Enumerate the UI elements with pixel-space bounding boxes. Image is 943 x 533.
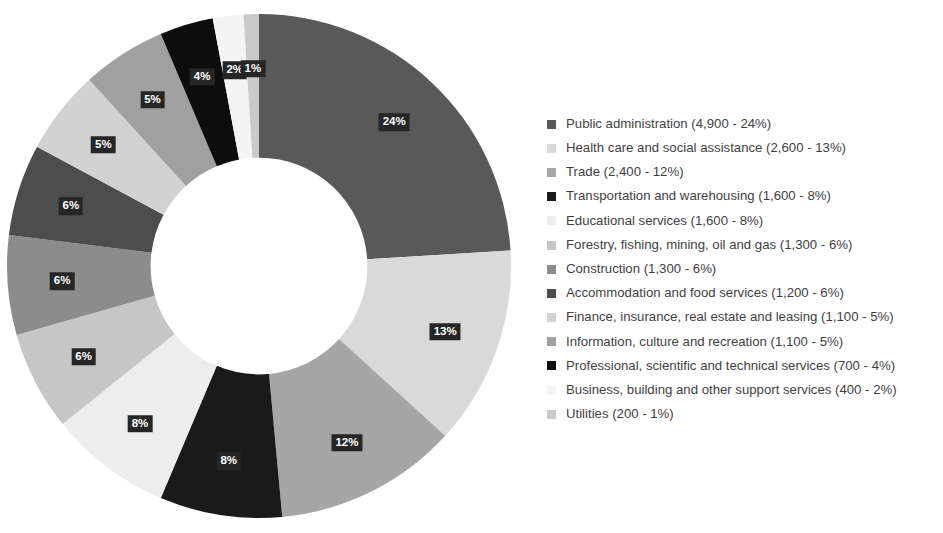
legend-swatch-icon bbox=[547, 265, 556, 274]
legend-item[interactable]: Educational services (1,600 - 8%) bbox=[545, 209, 943, 233]
legend-item[interactable]: Professional, scientific and technical s… bbox=[545, 354, 943, 378]
legend-item-label: Business, building and other support ser… bbox=[566, 383, 897, 398]
legend-swatch-icon bbox=[547, 168, 556, 177]
legend-item-label: Public administration (4,900 - 24%) bbox=[566, 117, 771, 132]
legend-item-label: Finance, insurance, real estate and leas… bbox=[566, 310, 894, 325]
slice-percent-label: 6% bbox=[59, 197, 84, 215]
legend-swatch-icon bbox=[547, 120, 556, 129]
legend-swatch-icon bbox=[547, 386, 556, 395]
legend-item-label: Trade (2,400 - 12%) bbox=[566, 165, 684, 180]
slice-percent-label: 24% bbox=[379, 113, 410, 131]
legend-swatch-icon bbox=[547, 192, 556, 201]
slice-percent-label: 8% bbox=[128, 415, 153, 433]
slice-percent-label: 8% bbox=[216, 452, 241, 470]
legend-item-label: Forestry, fishing, mining, oil and gas (… bbox=[566, 238, 852, 253]
legend-swatch-icon bbox=[547, 361, 556, 370]
legend-item-label: Construction (1,300 - 6%) bbox=[566, 262, 716, 277]
slice-percent-label: 5% bbox=[91, 136, 116, 154]
legend-item[interactable]: Finance, insurance, real estate and leas… bbox=[545, 306, 943, 330]
legend-swatch-icon bbox=[547, 289, 556, 298]
donut-chart: 24%13%12%8%8%6%6%6%5%5%4%2%1% bbox=[0, 0, 525, 533]
legend-item[interactable]: Transportation and warehousing (1,600 - … bbox=[545, 185, 943, 209]
slice-percent-label: 6% bbox=[71, 348, 96, 366]
slice-percent-label: 6% bbox=[50, 272, 75, 290]
legend-item-label: Health care and social assistance (2,600… bbox=[566, 141, 846, 156]
donut-slice[interactable] bbox=[259, 14, 511, 259]
legend-item-label: Educational services (1,600 - 8%) bbox=[566, 214, 763, 229]
legend-swatch-icon bbox=[547, 216, 556, 225]
legend-item[interactable]: Business, building and other support ser… bbox=[545, 378, 943, 402]
slice-percent-label: 13% bbox=[430, 323, 461, 341]
donut-chart-svg bbox=[0, 0, 525, 533]
legend-item[interactable]: Information, culture and recreation (1,1… bbox=[545, 330, 943, 354]
legend-swatch-icon bbox=[547, 241, 556, 250]
legend-swatch-icon bbox=[547, 410, 556, 419]
legend-item[interactable]: Public administration (4,900 - 24%) bbox=[545, 112, 943, 136]
legend-item-label: Information, culture and recreation (1,1… bbox=[566, 335, 843, 350]
legend-item-label: Professional, scientific and technical s… bbox=[566, 359, 895, 374]
legend-item-label: Accommodation and food services (1,200 -… bbox=[566, 286, 844, 301]
legend-swatch-icon bbox=[547, 313, 556, 322]
slice-percent-label: 5% bbox=[140, 91, 165, 109]
legend-item[interactable]: Accommodation and food services (1,200 -… bbox=[545, 281, 943, 305]
legend-item[interactable]: Health care and social assistance (2,600… bbox=[545, 136, 943, 160]
legend-item[interactable]: Utilities (200 - 1%) bbox=[545, 402, 943, 426]
slice-percent-label: 4% bbox=[190, 68, 215, 86]
legend-swatch-icon bbox=[547, 144, 556, 153]
legend-swatch-icon bbox=[547, 337, 556, 346]
legend-item-label: Transportation and warehousing (1,600 - … bbox=[566, 189, 831, 204]
legend-item[interactable]: Forestry, fishing, mining, oil and gas (… bbox=[545, 233, 943, 257]
chart-legend: Public administration (4,900 - 24%)Healt… bbox=[545, 112, 943, 426]
legend-item[interactable]: Trade (2,400 - 12%) bbox=[545, 160, 943, 184]
legend-item[interactable]: Construction (1,300 - 6%) bbox=[545, 257, 943, 281]
legend-item-label: Utilities (200 - 1%) bbox=[566, 407, 674, 422]
slice-percent-label: 12% bbox=[331, 434, 362, 452]
slice-percent-label: 1% bbox=[241, 60, 266, 78]
